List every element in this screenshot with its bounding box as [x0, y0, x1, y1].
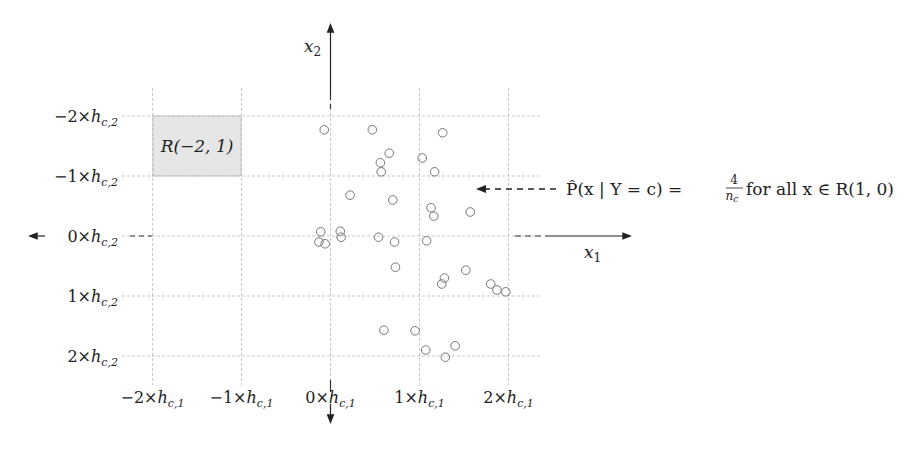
data-point: [380, 326, 389, 335]
y-tick-label: 1×hc,2: [67, 287, 118, 309]
data-points: [315, 126, 511, 362]
data-point: [421, 346, 430, 355]
data-point: [451, 342, 460, 351]
data-point: [430, 168, 439, 177]
axes: [30, 25, 630, 422]
data-point: [441, 353, 450, 362]
x-tick-label: −2×hc,1: [121, 388, 185, 410]
data-point: [427, 204, 436, 213]
x1-axis-label: x1: [584, 242, 601, 265]
data-point: [376, 159, 385, 168]
x-tick-label: 0×hc,1: [305, 388, 356, 410]
data-point: [411, 327, 420, 336]
data-point: [493, 286, 502, 295]
data-point: [390, 238, 399, 247]
svg-text:4: 4: [730, 173, 738, 187]
fraction-4-over-nc: 4 nc: [726, 173, 743, 204]
data-point: [336, 227, 345, 236]
data-point: [377, 168, 386, 177]
region-label: R(−2, 1): [160, 136, 234, 156]
annotation: P̂(x | Y = c) = 4 nc for all x ∈ R(1, 0): [566, 173, 894, 204]
data-point: [461, 266, 470, 275]
data-point: [321, 240, 330, 249]
x-tick-label: 1×hc,1: [394, 388, 445, 410]
data-point: [346, 191, 355, 200]
data-point: [389, 196, 398, 205]
y-tick-label: 2×hc,2: [67, 347, 118, 369]
data-point: [422, 237, 431, 246]
data-point: [368, 126, 377, 135]
data-point: [438, 129, 447, 138]
data-point: [320, 126, 329, 135]
data-point: [391, 263, 400, 272]
svg-text:nc: nc: [726, 189, 739, 204]
histogram-grid-figure: −2×hc,1−1×hc,10×hc,11×hc,12×hc,12×hc,21×…: [0, 0, 920, 466]
data-point: [429, 212, 438, 221]
data-point: [466, 208, 475, 217]
data-point: [385, 149, 394, 158]
figure-canvas: −2×hc,1−1×hc,10×hc,11×hc,12×hc,12×hc,21×…: [0, 0, 920, 466]
annotation-suffix: for all x ∈ R(1, 0): [746, 179, 894, 199]
y-tick-label: −2×hc,2: [54, 107, 118, 129]
tick-labels: −2×hc,1−1×hc,10×hc,11×hc,12×hc,12×hc,21×…: [54, 107, 534, 410]
data-point: [502, 288, 511, 297]
data-point: [316, 228, 325, 237]
y-tick-label: 0×hc,2: [67, 227, 118, 249]
y-tick-label: −1×hc,2: [54, 167, 118, 189]
data-point: [374, 233, 383, 242]
x-tick-label: −1×hc,1: [210, 388, 274, 410]
data-point: [315, 238, 324, 247]
annotation-prefix: P̂(x | Y = c) =: [566, 179, 682, 199]
data-point: [337, 233, 346, 242]
x2-axis-label: x2: [304, 36, 321, 59]
x-tick-label: 2×hc,1: [483, 388, 534, 410]
